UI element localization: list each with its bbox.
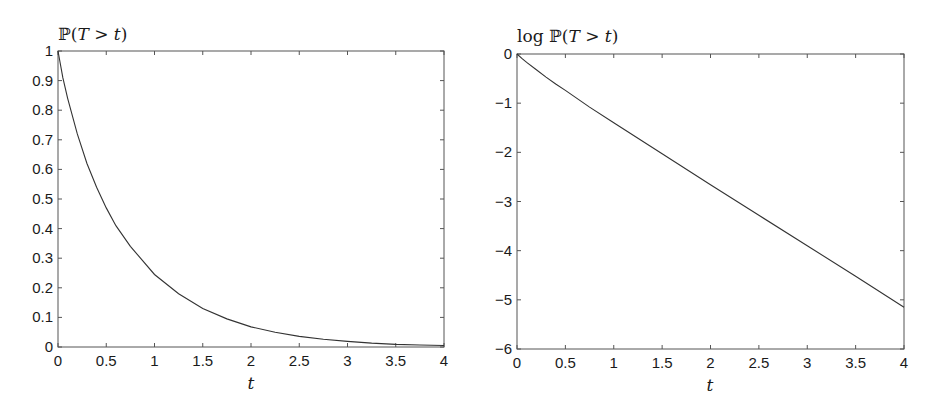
right-y-tick-label: −3 (495, 193, 512, 210)
right-y-tick-label: 0 (504, 45, 512, 62)
left-x-tick-label: 3 (343, 352, 351, 369)
right-x-tick-label: 0.5 (555, 354, 576, 371)
right-y-tick-label: −4 (495, 242, 512, 259)
right-x-tick-label: 2 (706, 354, 714, 371)
left-y-tick-label: 0.4 (32, 220, 53, 237)
left-x-tick-label: 4 (440, 352, 448, 369)
right-y-tick-label: −5 (495, 291, 512, 308)
right-y-axis-ticks: −6−5−4−3−2−10 (495, 45, 904, 357)
left-x-tick-label: 1 (150, 352, 158, 369)
right-x-tick-label: 1.5 (652, 354, 673, 371)
right-x-tick-label: 2.5 (748, 354, 769, 371)
left-y-tick-label: 0.6 (32, 160, 53, 177)
right-x-tick-label: 4 (900, 354, 908, 371)
log-survival-probability-chart: log ℙ(T > t) 00.511.522.533.54 −6−5−4−3−… (495, 26, 908, 395)
right-x-axis-title: t (707, 375, 714, 395)
right-y-tick-label: −6 (495, 340, 512, 357)
left-y-tick-label: 0.3 (32, 249, 53, 266)
left-y-tick-label: 0.9 (32, 72, 53, 89)
left-y-tick-label: 0.8 (32, 101, 53, 118)
right-y-tick-label: −1 (495, 94, 512, 111)
survival-charts: ℙ(T > t) 00.511.522.533.54 00.10.20.30.4… (0, 0, 938, 407)
left-x-tick-label: 2.5 (289, 352, 310, 369)
left-x-tick-label: 2 (247, 352, 255, 369)
left-y-tick-label: 0.1 (32, 308, 53, 325)
left-y-tick-label: 0 (45, 338, 53, 355)
left-x-tick-label: 0.5 (96, 352, 117, 369)
left-y-tick-label: 0.7 (32, 131, 53, 148)
left-y-axis-ticks: 00.10.20.30.40.50.60.70.80.91 (32, 42, 444, 355)
right-y-axis-title: log ℙ(T > t) (517, 26, 618, 46)
left-plot-frame (58, 51, 444, 347)
left-survival-curve (58, 51, 444, 346)
right-x-tick-label: 1 (610, 354, 618, 371)
right-plot-frame (517, 54, 904, 349)
left-y-tick-label: 0.2 (32, 279, 53, 296)
left-y-tick-label: 0.5 (32, 190, 53, 207)
right-x-tick-label: 3 (803, 354, 811, 371)
right-y-tick-label: −2 (495, 143, 512, 160)
left-x-tick-label: 3.5 (385, 352, 406, 369)
right-x-tick-label: 3.5 (845, 354, 866, 371)
left-x-tick-label: 1.5 (192, 352, 213, 369)
right-x-tick-label: 0 (513, 354, 521, 371)
left-x-axis-ticks: 00.511.522.533.54 (54, 51, 448, 369)
right-x-axis-ticks: 00.511.522.533.54 (513, 54, 908, 371)
left-y-tick-label: 1 (45, 42, 53, 59)
left-x-tick-label: 0 (54, 352, 62, 369)
left-x-axis-title: t (248, 373, 255, 393)
right-log-survival-curve (517, 54, 904, 307)
left-y-axis-title: ℙ(T > t) (58, 24, 127, 44)
survival-probability-chart: ℙ(T > t) 00.511.522.533.54 00.10.20.30.4… (32, 24, 448, 393)
